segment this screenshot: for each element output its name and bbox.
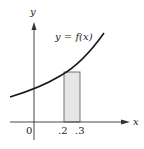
y-axis-label: y [29,6,36,17]
tick-label-0.2: .2 [58,125,68,136]
x-axis-arrow-icon [121,120,130,125]
tick-label-0.3: .3 [75,125,85,136]
function-curve [10,33,104,97]
y-axis-arrow-icon [32,22,37,30]
diagram-canvas: y x y = f(x) 0 .2 .3 [0,0,144,149]
origin-label: 0 [26,125,32,136]
shaded-rectangle [64,72,80,122]
curve-label: y = f(x) [54,31,93,42]
x-axis-label: x [133,116,139,127]
